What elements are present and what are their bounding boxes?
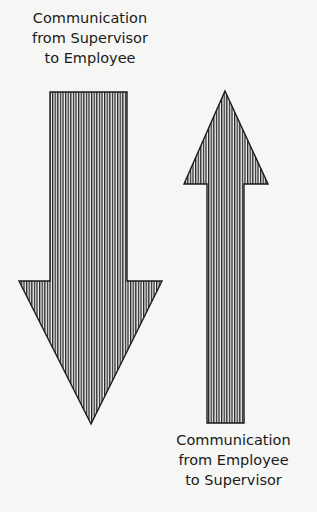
up-label-line-3: to Supervisor (150, 470, 317, 490)
down-arrow-icon (19, 92, 162, 424)
up-arrow-label: Communication from Employee to Superviso… (150, 430, 317, 490)
up-label-line-2: from Employee (150, 450, 317, 470)
up-label-line-1: Communication (150, 430, 317, 450)
up-arrow-icon (184, 91, 268, 423)
